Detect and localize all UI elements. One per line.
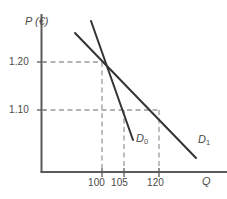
x-axis-label: Q	[202, 176, 211, 187]
chart-canvas	[0, 0, 227, 199]
y-axis-label: P (€)	[25, 16, 48, 27]
demand-curve-figure: P (€) 1.20 1.10 100 105 120 Q D0 D1	[0, 0, 227, 199]
guide-lines-group	[42, 62, 160, 171]
x-tick-label-105: 105	[111, 178, 128, 188]
y-tick-label-120: 1.20	[9, 57, 29, 67]
curve-label-d0-subscript: 0	[144, 137, 148, 146]
curve-label-d0-base: D	[136, 132, 144, 144]
curve-label-d1: D1	[198, 134, 210, 145]
curve-label-d0: D0	[136, 133, 148, 144]
curve-label-d1-subscript: 1	[206, 138, 210, 147]
demand-curve-d0	[91, 21, 133, 140]
curve-label-d1-base: D	[198, 133, 206, 145]
x-tick-label-120: 120	[147, 178, 164, 188]
y-tick-label-110: 1.10	[9, 105, 29, 115]
x-tick-label-100: 100	[88, 178, 105, 188]
